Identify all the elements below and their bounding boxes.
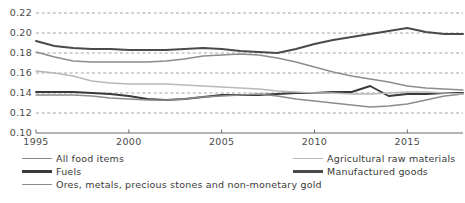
x-axis-ticks: [36, 130, 407, 134]
series-line-3: [36, 71, 463, 94]
legend-item[interactable]: Ores, metals, precious stones and non-mo…: [22, 178, 322, 191]
legend-item[interactable]: All food items: [22, 152, 124, 165]
legend-label: Manufactured goods: [327, 166, 428, 177]
legend-swatch-line-icon: [293, 158, 323, 159]
legend-item[interactable]: Fuels: [22, 165, 81, 178]
gridlines: [36, 13, 463, 113]
legend-label: Fuels: [56, 166, 81, 177]
chart-container: 0.220.200.180.160.140.120.10 19952000200…: [0, 0, 465, 203]
legend-label: Agricultural raw materials: [327, 153, 455, 164]
legend-label: All food items: [56, 153, 124, 164]
legend-item[interactable]: Manufactured goods: [293, 165, 428, 178]
legend-swatch-line-icon: [22, 158, 52, 159]
legend-swatch-line-icon: [22, 170, 52, 172]
data-series-group: [36, 28, 463, 107]
legend-label: Ores, metals, precious stones and non-mo…: [56, 179, 322, 190]
series-line-0: [36, 52, 463, 90]
legend-item[interactable]: Agricultural raw materials: [293, 152, 455, 165]
series-line-4: [36, 28, 463, 53]
legend-swatch-line-icon: [293, 170, 323, 172]
legend-swatch-line-icon: [22, 184, 52, 185]
chart-legend: All food itemsFuelsOres, metals, preciou…: [0, 152, 465, 203]
